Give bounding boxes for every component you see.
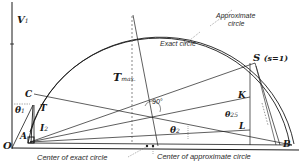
s-point-label: S (s=1) xyxy=(253,53,288,63)
i2-label: I2 xyxy=(40,124,48,133)
a-b-line xyxy=(28,143,292,145)
center-approx-label: Center of approximate circle xyxy=(157,153,251,161)
c-to-b-line xyxy=(34,94,292,145)
center-exact-marker xyxy=(146,145,148,147)
radius-line xyxy=(133,15,158,146)
a-point-label: A xyxy=(20,132,27,141)
center-approx-marker xyxy=(152,145,154,147)
a-to-l-line xyxy=(30,130,250,142)
theta25-label: θ25 xyxy=(225,110,238,118)
s-to-b-line xyxy=(255,63,280,145)
s-to-b-line-2 xyxy=(256,66,276,145)
a-to-s-line xyxy=(30,63,255,142)
approx-circle-label: Approximatecircle xyxy=(216,12,255,27)
center-exact-label: Center of exact circle xyxy=(37,154,107,162)
tmax-label: Tmax. xyxy=(113,72,136,83)
theta2-label: θ2 xyxy=(170,126,180,135)
center-exact-leader xyxy=(128,146,148,157)
t-label: T xyxy=(40,104,47,113)
v1-label: V1 xyxy=(17,15,29,25)
o-point-label: O xyxy=(3,141,12,151)
k-point-label: K xyxy=(238,91,246,100)
theta1-label: θ1 xyxy=(15,106,25,115)
l-point-label: L xyxy=(239,122,245,131)
b-point-label: B xyxy=(283,140,291,149)
c-point-label: C xyxy=(25,90,32,99)
theta25-dashed xyxy=(262,103,268,125)
exact-circle-label: Exact circle xyxy=(160,40,196,47)
angle-90-label: 90° xyxy=(152,98,163,105)
a-to-k-line xyxy=(30,97,250,142)
base-line xyxy=(12,148,299,150)
